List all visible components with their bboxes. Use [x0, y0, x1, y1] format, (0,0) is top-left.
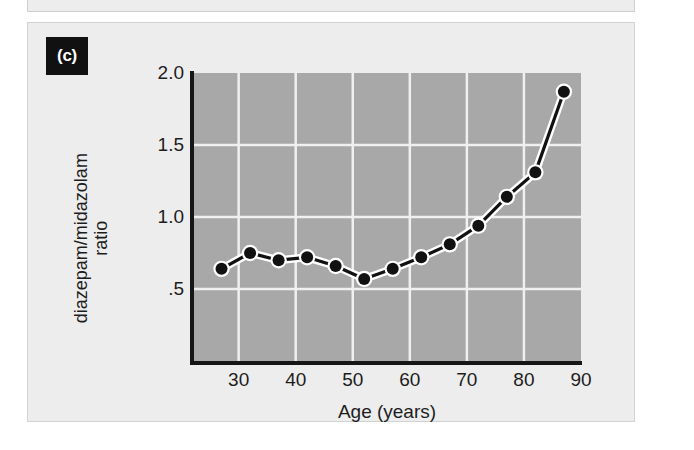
series-line-halo-path [222, 92, 564, 279]
data-point [358, 273, 370, 285]
gridlines [193, 73, 581, 361]
x-axis-line [190, 361, 582, 365]
data-point [330, 260, 342, 272]
x-tick-label: 60 [380, 369, 440, 391]
data-point [244, 247, 256, 259]
data-point [558, 86, 570, 98]
data-point [472, 220, 484, 232]
series-line-halo [222, 92, 564, 279]
y-axis-line [190, 71, 194, 365]
x-tick-label: 40 [266, 369, 326, 391]
y-axis-label-line1: diazepam/midazolam [71, 123, 91, 353]
data-point [529, 166, 541, 178]
x-tick-label: 80 [494, 369, 554, 391]
data-point [444, 238, 456, 250]
y-axis-ticks: .51.01.52.0 [106, 23, 184, 423]
x-tick-label: 90 [551, 369, 611, 391]
data-point [216, 263, 228, 275]
data-point [301, 251, 313, 263]
data-point [415, 251, 427, 263]
series-line-path [222, 92, 564, 279]
y-axis-label-line2: ratio [91, 123, 111, 353]
figure-panel-c: (c) .51.01.52.0 diazepam/midazolam ratio… [27, 22, 635, 422]
data-point [501, 191, 513, 203]
x-axis-label: Age (years) [193, 401, 581, 423]
figure-root: (c) .51.01.52.0 diazepam/midazolam ratio… [0, 0, 694, 450]
y-tick-label: 2.0 [114, 62, 184, 84]
x-tick-label: 50 [323, 369, 383, 391]
data-point [273, 254, 285, 266]
y-tick-label: .5 [114, 278, 184, 300]
y-axis-label: diazepam/midazolam ratio [71, 123, 111, 353]
y-tick-label: 1.5 [114, 134, 184, 156]
panel-above-partial [27, 0, 635, 12]
series-line [222, 92, 564, 279]
y-tick-label: 1.0 [114, 206, 184, 228]
plot-svg [193, 73, 581, 361]
chart-area: .51.01.52.0 diazepam/midazolam ratio Age… [28, 23, 636, 423]
x-tick-label: 30 [209, 369, 269, 391]
data-point [387, 263, 399, 275]
plot-area [193, 73, 581, 361]
x-tick-label: 70 [437, 369, 497, 391]
